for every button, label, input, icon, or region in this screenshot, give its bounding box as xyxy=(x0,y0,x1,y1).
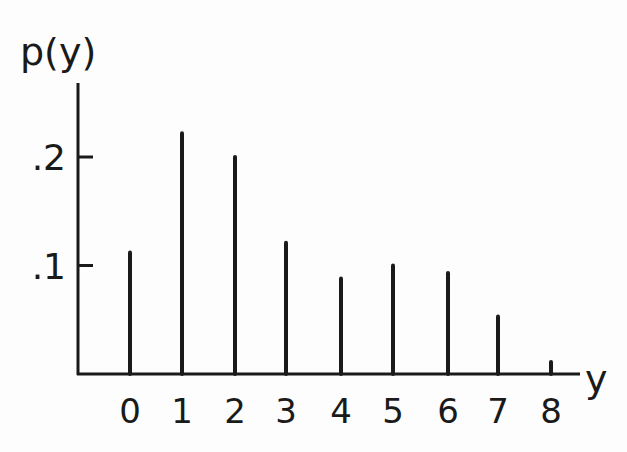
axes xyxy=(77,83,580,375)
x-tick-label: 2 xyxy=(224,391,246,431)
x-tick-label: 5 xyxy=(382,391,404,431)
x-tick-label: 3 xyxy=(275,391,297,431)
probability-stem-chart: .1.2012345678p(y)y xyxy=(0,0,627,452)
x-axis-title: y xyxy=(585,357,608,401)
x-tick-label: 6 xyxy=(437,391,459,431)
stems xyxy=(130,133,551,374)
y-tick-label: .2 xyxy=(32,137,66,178)
labels: .1.2012345678p(y)y xyxy=(20,30,608,431)
x-tick-label: 8 xyxy=(540,391,562,431)
y-axis-title: p(y) xyxy=(20,30,96,74)
x-tick-label: 1 xyxy=(171,391,193,431)
x-tick-label: 7 xyxy=(487,391,509,431)
y-tick-label: .1 xyxy=(32,246,66,287)
x-tick-label: 0 xyxy=(119,391,141,431)
x-tick-label: 4 xyxy=(330,391,352,431)
